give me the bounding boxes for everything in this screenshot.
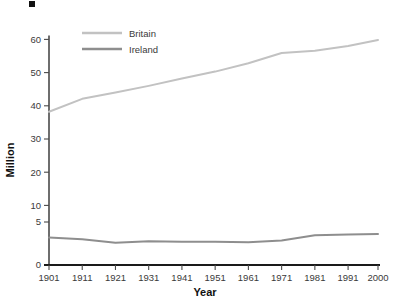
series-line-ireland bbox=[49, 234, 378, 243]
y-tick-label: 30 bbox=[30, 133, 41, 144]
y-tick-label: 0 bbox=[36, 259, 41, 270]
legend-label-ireland: Ireland bbox=[129, 44, 158, 55]
x-tick-label: 1901 bbox=[38, 272, 59, 283]
x-tick-label: 1941 bbox=[171, 272, 192, 283]
x-tick-label: 1961 bbox=[238, 272, 259, 283]
y-tick-label: 60 bbox=[30, 34, 41, 45]
y-tick-label: 5 bbox=[36, 216, 41, 227]
y-tick-label: 10 bbox=[30, 200, 41, 211]
x-tick-label: 2000 bbox=[367, 272, 388, 283]
x-tick-label: 1981 bbox=[304, 272, 325, 283]
y-tick-label: 20 bbox=[30, 167, 41, 178]
legend-label-britain: Britain bbox=[129, 28, 156, 39]
y-axis-title: Million bbox=[4, 142, 16, 177]
x-tick-label: 1931 bbox=[138, 272, 159, 283]
x-axis-title: Year bbox=[193, 286, 217, 298]
chart-canvas: 05102030405060 1901191119211931194119511… bbox=[0, 0, 396, 302]
x-axis: 1901191119211931194119511961197119811991… bbox=[38, 265, 388, 283]
y-tick-label: 50 bbox=[30, 67, 41, 78]
data-series-group bbox=[49, 40, 378, 243]
x-tick-label: 1911 bbox=[72, 272, 92, 283]
series-line-britain bbox=[49, 40, 378, 112]
x-tick-label: 1951 bbox=[205, 272, 226, 283]
x-tick-label: 1971 bbox=[271, 272, 292, 283]
y-axis: 05102030405060 bbox=[30, 34, 49, 271]
x-tick-label: 1921 bbox=[105, 272, 126, 283]
chart-legend: BritainIreland bbox=[82, 28, 158, 55]
x-tick-label: 1991 bbox=[338, 272, 359, 283]
y-tick-label: 40 bbox=[30, 100, 41, 111]
population-line-chart: 05102030405060 1901191119211931194119511… bbox=[0, 0, 396, 302]
